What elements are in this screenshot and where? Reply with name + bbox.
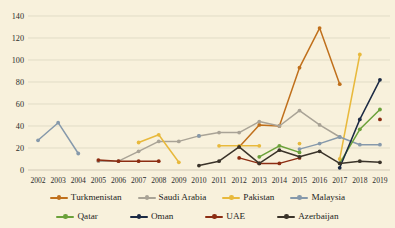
line-chart: 0204060801001201402002200320042005200620… (0, 0, 395, 228)
data-point (378, 108, 382, 112)
data-point (157, 140, 161, 144)
data-point (378, 78, 382, 82)
data-point (277, 124, 281, 128)
legend-item-turkmenistan[interactable]: Turkmenistan (50, 193, 122, 202)
legend-marker-icon (130, 212, 148, 221)
data-point (277, 162, 281, 166)
x-axis-tick-label: 2019 (372, 176, 387, 185)
legend-item-pakistan[interactable]: Pakistan (222, 193, 274, 202)
x-axis-tick-label: 2004 (71, 176, 86, 185)
x-axis-tick-label: 2013 (252, 176, 267, 185)
data-point (298, 147, 302, 151)
legend-marker-icon (50, 193, 68, 202)
y-axis-tick-label: 40 (16, 122, 24, 131)
data-point (358, 127, 362, 131)
x-axis-tick-label: 2005 (91, 176, 106, 185)
data-point (358, 118, 362, 122)
legend-marker-icon (138, 193, 156, 202)
data-point (137, 159, 141, 163)
series-line (98, 111, 339, 162)
y-axis-tick-label: 60 (16, 100, 24, 109)
x-axis-tick-label: 2012 (232, 176, 247, 185)
legend-marker-icon (56, 212, 74, 221)
y-axis-tick-label: 100 (12, 56, 24, 65)
data-point (197, 134, 201, 138)
legend-marker-icon (290, 193, 308, 202)
legend-item-uae[interactable]: UAE (205, 212, 245, 221)
data-point (117, 159, 121, 163)
data-point (197, 164, 201, 168)
data-point (157, 159, 161, 163)
x-axis-tick-label: 2007 (131, 176, 146, 185)
data-point (298, 142, 302, 146)
x-axis-tick-label: 2008 (151, 176, 166, 185)
legend-item-malaysia[interactable]: Malaysia (290, 193, 345, 202)
legend-item-saudi-arabia[interactable]: Saudi Arabia (138, 193, 207, 202)
data-point (318, 26, 322, 30)
legend-row-1: Turkmenistan Saudi Arabia Pakistan Malay… (0, 188, 395, 207)
data-point (237, 156, 241, 160)
legend-item-azerbaijan[interactable]: Azerbaijan (277, 212, 338, 221)
x-axis-tick-label: 2017 (332, 176, 347, 185)
data-point (338, 166, 342, 170)
data-point (76, 152, 80, 156)
y-axis-tick-label: 80 (16, 78, 24, 87)
x-axis-tick-label: 2011 (212, 176, 227, 185)
x-axis-tick-label: 2016 (312, 176, 327, 185)
legend-item-qatar[interactable]: Qatar (56, 212, 97, 221)
data-point (277, 144, 281, 148)
legend-label: Oman (151, 212, 173, 221)
data-point (257, 155, 261, 159)
data-point (378, 118, 382, 122)
y-axis-tick-label: 0 (20, 166, 24, 175)
legend-marker-icon (205, 212, 223, 221)
data-point (257, 162, 261, 166)
x-axis-tick-label: 2002 (30, 176, 45, 185)
data-point (157, 133, 161, 137)
series-line (38, 123, 78, 154)
plot-area: 0204060801001201402002200320042005200620… (0, 0, 395, 190)
data-point (358, 53, 362, 57)
series-line (239, 28, 340, 147)
legend-label: Malaysia (311, 193, 345, 202)
data-point (217, 131, 221, 135)
series-oman (338, 78, 382, 170)
data-point (298, 109, 302, 113)
data-point (177, 140, 181, 144)
data-point (217, 159, 221, 163)
legend-marker-icon (277, 212, 295, 221)
data-point (56, 121, 60, 125)
chart-canvas: 0204060801001201402002200320042005200620… (0, 0, 395, 190)
data-point (137, 141, 141, 145)
data-point (338, 135, 342, 139)
data-point (358, 159, 362, 163)
data-point (177, 160, 181, 164)
data-point (237, 131, 241, 135)
y-axis-tick-label: 20 (16, 144, 24, 153)
legend-label: Pakistan (243, 193, 274, 202)
legend-item-oman[interactable]: Oman (130, 212, 173, 221)
data-point (298, 151, 302, 155)
data-point (378, 143, 382, 147)
data-point (338, 82, 342, 86)
legend-label: Azerbaijan (298, 212, 338, 221)
data-point (318, 149, 322, 153)
chart-legend: Turkmenistan Saudi Arabia Pakistan Malay… (0, 188, 395, 228)
series-turkmenistan (237, 26, 341, 149)
x-axis-tick-label: 2015 (292, 176, 307, 185)
data-point (217, 144, 221, 148)
series-pakistan (137, 53, 362, 165)
data-point (318, 142, 322, 146)
data-point (96, 158, 100, 162)
data-point (137, 149, 141, 153)
data-point (338, 162, 342, 166)
x-axis-tick-label: 2003 (51, 176, 66, 185)
x-axis-tick-label: 2010 (191, 176, 206, 185)
x-axis-tick-label: 2009 (171, 176, 186, 185)
data-point (298, 155, 302, 159)
legend-label: Saudi Arabia (159, 193, 207, 202)
legend-label: UAE (226, 212, 245, 221)
x-axis-tick-label: 2014 (272, 176, 287, 185)
series-line (98, 160, 158, 161)
x-axis-tick-label: 2006 (111, 176, 126, 185)
